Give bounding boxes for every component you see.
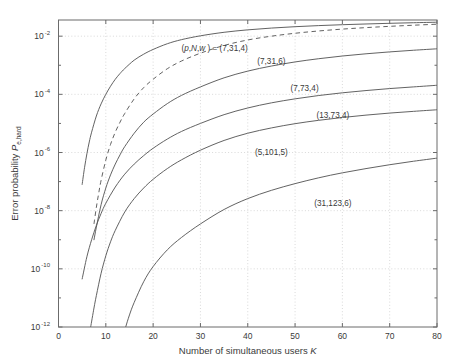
y-tick-label-exponent: -12 [41,321,50,327]
x-tick-label: 70 [385,331,395,341]
x-tick-label: 40 [243,331,253,341]
y-tick-label: 10 [34,31,44,41]
x-tick-label: 80 [432,331,442,341]
figure-container: 0102030405060708010-210-410-610-810-1010… [0,0,455,364]
y-tick-label-exponent: -2 [45,30,51,36]
x-tick-label: 10 [101,331,111,341]
series-annotation-7314: (p,N,w ) = (7,31,4) [181,44,248,53]
y-tick-label-exponent: -4 [45,88,51,94]
x-tick-label: 30 [196,331,206,341]
y-tick-label: 10 [34,89,44,99]
series-annotation-51015: (5,101,5) [255,148,288,157]
series-annotation-13734: (13,73,4) [317,111,350,120]
y-tick-label: 10 [34,206,44,216]
y-tick-label-exponent: -10 [41,262,50,268]
x-tick-label: 0 [56,331,61,341]
x-tick-label: 60 [338,331,348,341]
chart-background [0,0,455,364]
series-annotation-311236: (31,123,6) [314,199,352,208]
y-tick-label: 10 [34,148,44,158]
error-probability-chart: 0102030405060708010-210-410-610-810-1010… [0,0,455,364]
x-axis-title: Number of simultaneous users K [179,345,317,356]
y-tick-label: 10 [31,322,41,332]
series-annotation-7734: (7,73,4) [290,84,318,93]
y-tick-label-exponent: -6 [45,146,51,152]
y-tick-label-exponent: -8 [45,204,51,210]
y-tick-label: 10 [31,264,41,274]
x-tick-label: 20 [148,331,158,341]
x-tick-label: 50 [290,331,300,341]
series-annotation-7316: (7,31,6) [257,57,285,66]
